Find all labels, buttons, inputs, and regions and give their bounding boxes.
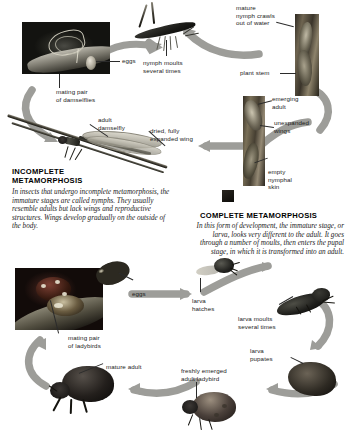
- label-mature-adult: mature adult: [106, 363, 142, 371]
- specimen-larva-hatches: [196, 256, 242, 282]
- body-incomplete-metamorphosis: In insects that undergo incomplete metam…: [12, 188, 172, 231]
- leader-mating-damselflies: [59, 74, 60, 88]
- leader-larva-pupates: [291, 357, 304, 364]
- photo-plant-stem-nymph: [295, 14, 319, 96]
- specimen-larva-moults: [276, 288, 340, 322]
- label-dried-expanded-wing: dried, fully expanded wing: [150, 127, 193, 142]
- label-eggs-ladybird: eggs: [132, 290, 146, 298]
- leader-eggs-damselfly: [96, 61, 120, 62]
- leader-freshly-emerged: [196, 382, 197, 398]
- label-larva-hatches: larva hatches: [192, 297, 214, 312]
- label-eggs-damselfly: eggs: [122, 57, 136, 65]
- label-mature-nymph: mature nymph crawls out of water: [236, 4, 275, 27]
- photo-mating-ladybirds: [15, 268, 103, 330]
- label-larva-pupates: larva pupates: [250, 347, 273, 362]
- label-adult-damselfly: adult damselfly: [98, 116, 125, 131]
- label-empty-nymphal-skin: empty nymphal skin: [268, 168, 292, 191]
- label-emerging-adult: emerging adult: [272, 95, 299, 110]
- label-freshly-emerged-adult: freshly emerged adult ladybird: [181, 367, 227, 382]
- specimen-damselfly-eggs: [86, 56, 96, 70]
- leader-nymph-moults: [166, 40, 167, 56]
- body-complete-metamorphosis: In this form of development, the immatur…: [192, 222, 344, 256]
- label-larva-moults: larva moults several times: [238, 315, 276, 330]
- leader-mature-nymph: [276, 22, 294, 27]
- leader-larva-hatches: [200, 278, 201, 292]
- label-nymph-moults: nymph moults several times: [143, 59, 183, 74]
- label-plant-stem: plant stem: [240, 69, 270, 77]
- photo-fragment: [222, 190, 234, 202]
- specimen-freshly-emerged-ladybird: [178, 392, 240, 434]
- photo-emerging-adult-stem: [243, 96, 265, 186]
- photo-mating-damselflies: [22, 22, 110, 74]
- label-unexpanded-wings: unexpanded wings: [274, 119, 309, 134]
- label-mating-pair-damselflies: mating pair of damselflies: [56, 88, 95, 103]
- leader-plant-stem: [280, 73, 296, 74]
- heading-complete-metamorphosis: COMPLETE METAMORPHOSIS: [200, 211, 348, 220]
- label-mating-pair-ladybirds: mating pair of ladybirds: [68, 334, 101, 349]
- specimen-nymph: [128, 8, 200, 54]
- heading-incomplete-metamorphosis: INCOMPLETE METAMORPHOSIS: [12, 167, 132, 185]
- specimen-mature-adult-ladybird: [48, 366, 120, 418]
- metamorphosis-diagram: eggs mating pair of damselflies nymph mo…: [0, 0, 351, 442]
